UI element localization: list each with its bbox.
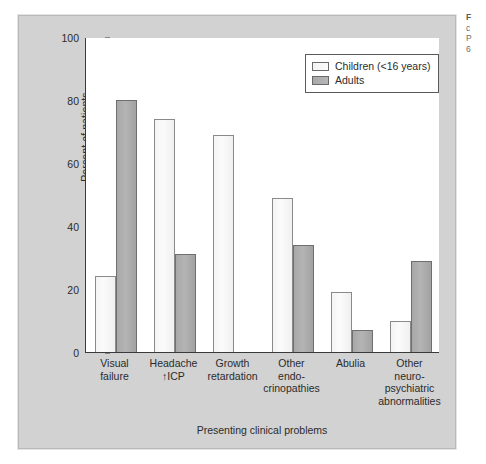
y-tick-label: 20	[45, 284, 79, 296]
legend-label: Children (<16 years)	[335, 60, 430, 72]
x-tick-label-line: psychiatric	[370, 382, 449, 395]
y-tick-label: 40	[45, 221, 79, 233]
bar-group	[204, 38, 263, 352]
y-tick-label: 100	[45, 32, 79, 44]
x-tick-label-line: crinopathies	[252, 382, 331, 395]
x-axis-tick-labels: VisualfailureHeadache↑ICPGrowthretardati…	[85, 357, 439, 419]
bar	[352, 330, 373, 352]
bar-group	[86, 38, 145, 352]
bar	[390, 321, 411, 353]
x-tick-label: Otherneuro-psychiatricabnormalities	[370, 357, 449, 407]
bar	[116, 100, 137, 352]
x-tick-label-line: abnormalities	[370, 395, 449, 408]
caption-line: c	[466, 23, 486, 34]
x-axis-title: Presenting clinical problems	[85, 424, 439, 436]
x-tick-label-line: neuro-	[370, 370, 449, 383]
caption-line: P	[466, 33, 486, 44]
legend-swatch-icon	[312, 62, 329, 71]
y-tick-label: 0	[45, 347, 79, 359]
chart-legend: Children (<16 years)Adults	[305, 54, 439, 93]
caption-line: F	[466, 12, 486, 23]
legend-item: Adults	[312, 73, 430, 87]
bar-group	[145, 38, 204, 352]
bar	[213, 135, 234, 352]
bar	[175, 254, 196, 352]
bar	[411, 261, 432, 352]
x-tick-label-line: Other	[370, 357, 449, 370]
plot-area: Children (<16 years)Adults	[85, 38, 439, 353]
caption-line: 6	[466, 44, 486, 55]
bar	[293, 245, 314, 352]
y-axis-tick-labels: 020406080100	[45, 38, 79, 353]
bar	[272, 198, 293, 352]
bar	[331, 292, 352, 352]
bar	[154, 119, 175, 352]
x-tick-label-line: endo-	[252, 370, 331, 383]
y-tick-label: 60	[45, 158, 79, 170]
legend-label: Adults	[335, 74, 364, 86]
bar	[95, 276, 116, 352]
legend-item: Children (<16 years)	[312, 59, 430, 73]
legend-swatch-icon	[312, 76, 329, 85]
y-tick-label: 80	[45, 95, 79, 107]
figure-panel: Percent of patients 020406080100 Childre…	[18, 15, 456, 449]
figure-caption: FcP6	[466, 12, 486, 54]
